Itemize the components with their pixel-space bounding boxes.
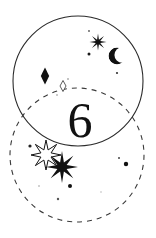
celestial-scene: 6 — [0, 0, 156, 238]
dot-9 — [68, 184, 72, 188]
dot-3 — [116, 72, 118, 74]
crescent-moon — [109, 48, 126, 65]
star-upper-right — [90, 34, 107, 51]
dot-7 — [124, 162, 128, 166]
dot-8 — [118, 157, 120, 159]
dot-11 — [38, 185, 40, 187]
diamond-solid-left — [41, 68, 49, 85]
star-solid-lower-left — [46, 151, 78, 183]
dot-6 — [28, 144, 31, 147]
dot-10 — [57, 198, 59, 200]
dot-2 — [88, 53, 91, 56]
dot-4 — [67, 78, 69, 80]
diamond-outline-center — [60, 81, 66, 92]
dot-12 — [100, 191, 101, 192]
dot-1 — [88, 30, 90, 32]
dot-5 — [56, 94, 58, 96]
numeral-six: 6 — [68, 92, 93, 148]
illustration-canvas: 6 — [0, 0, 156, 238]
